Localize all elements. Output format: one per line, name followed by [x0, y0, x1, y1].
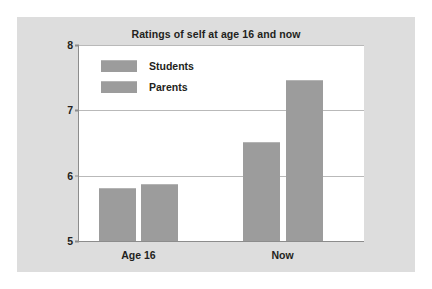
- legend-label-parents: Parents: [149, 81, 188, 93]
- xtick-label-age-16: Age 16: [121, 249, 155, 261]
- ytick-mark-7: [75, 110, 79, 112]
- legend-swatch-icon-parents: [101, 81, 137, 93]
- ytick-label-5: 5: [67, 235, 73, 247]
- legend-label-students: Students: [149, 60, 194, 72]
- legend-item-students: Students: [101, 59, 194, 72]
- bar-students-age16: [99, 188, 136, 241]
- ytick-label-7: 7: [67, 104, 73, 116]
- chart-legend: Students Parents: [101, 59, 194, 101]
- bar-parents-now: [286, 80, 323, 241]
- bar-parents-age16: [141, 184, 178, 241]
- chart-title: Ratings of self at age 16 and now: [17, 28, 415, 40]
- chart-card: Ratings of self at age 16 and now 8 7 6 …: [17, 17, 415, 272]
- ytick-mark-5: [75, 241, 79, 243]
- ytick-mark-6: [75, 175, 79, 177]
- bar-students-now: [243, 142, 280, 241]
- ytick-label-8: 8: [67, 39, 73, 51]
- chart-figure: Ratings of self at age 16 and now 8 7 6 …: [0, 0, 432, 289]
- plot-area: 8 7 6 5 Age 16 Now Students Parents: [78, 45, 364, 242]
- ytick-mark-8: [75, 45, 79, 47]
- legend-item-parents: Parents: [101, 80, 194, 93]
- xtick-label-now: Now: [271, 249, 293, 261]
- gridline-8: [79, 45, 364, 46]
- ytick-label-6: 6: [67, 170, 73, 182]
- legend-swatch-icon-students: [101, 60, 137, 72]
